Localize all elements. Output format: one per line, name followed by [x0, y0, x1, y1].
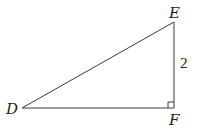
right-angle-marker-icon — [168, 102, 174, 108]
triangle-sides — [22, 22, 174, 108]
vertex-label-d: D — [5, 100, 18, 118]
side-label-ef: 2 — [180, 55, 188, 71]
side-de — [22, 22, 174, 108]
triangle-diagram: E F D 2 — [0, 0, 197, 130]
vertex-label-e: E — [168, 4, 180, 22]
vertex-label-f: F — [168, 111, 180, 129]
